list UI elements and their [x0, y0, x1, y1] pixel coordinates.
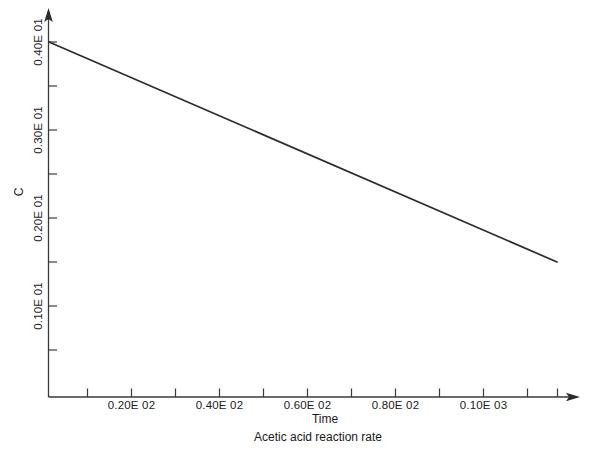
- y-axis-ticks: [49, 42, 58, 350]
- data-series-line: [49, 42, 557, 262]
- y-axis-title: C: [12, 187, 26, 196]
- y-axis-tick-labels: 0.40E 01 0.30E 01 0.20E 01 0.10E 01: [32, 18, 44, 330]
- x-tick-label-60: 0.60E 02: [284, 399, 332, 411]
- y-tick-label-4: 0.40E 01: [32, 18, 44, 66]
- x-axis-title: Time: [312, 412, 339, 426]
- x-tick-label-40: 0.40E 02: [196, 399, 244, 411]
- chart-caption: Acetic acid reaction rate: [254, 430, 382, 444]
- x-tick-label-100: 0.10E 03: [460, 399, 508, 411]
- x-axis-tick-labels: 0.20E 02 0.40E 02 0.60E 02 0.80E 02 0.10…: [108, 399, 508, 411]
- y-tick-label-2: 0.20E 01: [32, 194, 44, 242]
- y-tick-label-1: 0.10E 01: [32, 282, 44, 330]
- y-tick-label-3: 0.30E 01: [32, 106, 44, 154]
- x-tick-label-20: 0.20E 02: [108, 399, 156, 411]
- chart-container: 0.40E 01 0.30E 01 0.20E 01 0.10E 01 C 0.…: [0, 0, 589, 452]
- x-tick-label-80: 0.80E 02: [372, 399, 420, 411]
- x-axis-ticks: [88, 389, 558, 398]
- acetic-acid-reaction-rate-chart: 0.40E 01 0.30E 01 0.20E 01 0.10E 01 C 0.…: [0, 0, 589, 452]
